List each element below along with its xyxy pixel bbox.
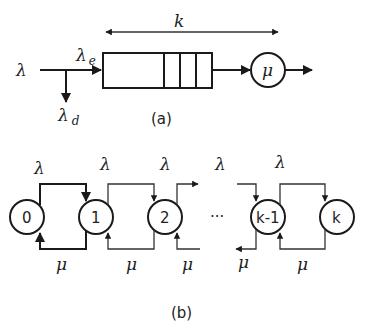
dropped-label: λd — [57, 105, 80, 128]
service-transition-in-2 — [177, 233, 200, 249]
server-label: μ — [262, 60, 273, 80]
effective-arrival-label: λe — [75, 45, 96, 68]
service-transition-1-0 — [40, 230, 86, 249]
diagram-a: k λ λe λd μ (a) — [15, 11, 312, 128]
arrival-transition-0-1 — [40, 184, 86, 205]
arrival-rate-label: λ — [159, 154, 171, 174]
caption-a: (a) — [151, 110, 172, 128]
state-label: 1 — [91, 209, 101, 227]
state-label: 2 — [160, 209, 170, 227]
capacity-label: k — [174, 11, 184, 31]
arrival-transition-2-out — [177, 184, 198, 205]
state-label: k-1 — [256, 209, 280, 227]
service-rate-label: μ — [297, 254, 308, 274]
service-rate-label: μ — [238, 252, 249, 272]
service-transition-k-k-minus-1 — [280, 230, 325, 249]
arrival-rate-label: λ — [99, 154, 111, 174]
state-label: 0 — [22, 209, 32, 227]
service-transition-2-1 — [108, 230, 154, 249]
ellipsis: ··· — [210, 208, 224, 226]
service-rate-label: μ — [182, 254, 193, 274]
queue-diagram: k λ λe λd μ (a) 0 1 2 ··· k-1 k — [0, 0, 366, 331]
service-rate-label: μ — [126, 254, 137, 274]
arrival-rate-label: λ — [33, 158, 45, 178]
diagram-b: 0 1 2 ··· k-1 k λ λ λ λ λ μ μ μ μ μ — [10, 152, 354, 322]
arrival-transition-in-k-minus-1 — [237, 184, 256, 201]
arrival-rate-label: λ — [214, 154, 226, 174]
service-rate-label: μ — [56, 254, 67, 274]
service-transition-k-minus-1-out — [236, 230, 256, 249]
arrival-label: λ — [15, 60, 27, 80]
arrival-transition-k-minus-1-k — [280, 184, 325, 205]
arrival-transition-1-2 — [108, 184, 154, 205]
state-label: k — [332, 209, 341, 227]
caption-b: (b) — [171, 304, 192, 322]
arrival-rate-label: λ — [274, 152, 286, 172]
